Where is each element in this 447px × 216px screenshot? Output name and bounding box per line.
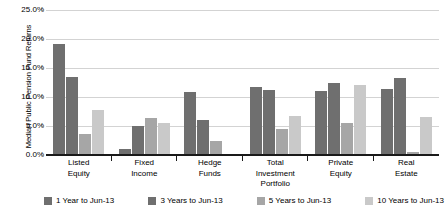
bar xyxy=(53,44,65,155)
y-axis-tick-label: 5.0% xyxy=(0,121,44,130)
x-axis-label-line: Listed xyxy=(46,158,112,169)
x-axis-label-line: Income xyxy=(112,169,178,180)
bar xyxy=(145,118,157,155)
bar xyxy=(92,110,104,155)
y-axis-tick-label: 25.0% xyxy=(0,5,44,14)
x-axis-category-label: ListedEquity xyxy=(46,158,112,188)
legend-label: 5 Years to Jun-13 xyxy=(269,196,331,205)
bar xyxy=(420,117,432,155)
legend-swatch-icon xyxy=(148,197,156,205)
x-axis-label-line: Real xyxy=(374,158,440,169)
y-axis-tick-label: 15.0% xyxy=(0,63,44,72)
y-axis-tick xyxy=(41,126,44,127)
x-axis-category-label: TotalInvestmentPortfolio xyxy=(243,158,309,188)
bar xyxy=(341,123,353,155)
y-axis-labels: 25.0%20.0%15.0%10.0%5.0%0.0% xyxy=(0,10,44,155)
bar xyxy=(394,78,406,155)
y-axis-tick xyxy=(41,155,44,156)
x-axis-label-line: Funds xyxy=(177,169,243,180)
y-axis-tick xyxy=(41,10,44,11)
legend-item[interactable]: 1 Year to Jun-13 xyxy=(44,196,114,205)
x-axis-line xyxy=(46,154,439,156)
bar xyxy=(263,90,275,155)
x-axis-category-label: HedgeFunds xyxy=(177,158,243,188)
bar xyxy=(381,89,393,155)
legend-swatch-icon xyxy=(365,197,373,205)
bar xyxy=(184,92,196,155)
bar xyxy=(328,83,340,155)
x-axis-label-line: Equity xyxy=(308,169,374,180)
legend-label: 3 Years to Jun-13 xyxy=(160,196,222,205)
legend-item[interactable]: 5 Years to Jun-13 xyxy=(257,196,331,205)
bar xyxy=(197,120,209,155)
x-axis-category-label: FixedIncome xyxy=(112,158,178,188)
bar xyxy=(276,129,288,155)
legend-label: 1 Year to Jun-13 xyxy=(56,196,114,205)
bar xyxy=(315,91,327,155)
bar xyxy=(210,141,222,156)
x-axis-labels: ListedEquityFixedIncomeHedgeFundsTotalIn… xyxy=(46,158,439,188)
plot-area xyxy=(46,10,439,155)
bar xyxy=(354,85,366,155)
x-axis-category-label: PrivateEquity xyxy=(308,158,374,188)
bar-group xyxy=(243,10,309,155)
x-axis-label-line: Portfolio xyxy=(243,179,309,190)
bar xyxy=(79,134,91,155)
y-axis-tick-label: 0.0% xyxy=(0,150,44,159)
bar-group xyxy=(308,10,374,155)
y-axis-tick xyxy=(41,97,44,98)
legend-label: 10 Years to Jun-13 xyxy=(377,196,444,205)
x-axis-label-line: Hedge xyxy=(177,158,243,169)
y-axis-tick xyxy=(41,68,44,69)
legend-item[interactable]: 3 Years to Jun-13 xyxy=(148,196,222,205)
bar-group xyxy=(177,10,243,155)
y-axis-tick-label: 20.0% xyxy=(0,34,44,43)
chart-legend: 1 Year to Jun-133 Years to Jun-135 Years… xyxy=(44,196,444,205)
bar xyxy=(132,126,144,155)
x-axis-label-line: Estate xyxy=(374,169,440,180)
x-axis-label-line: Equity xyxy=(46,169,112,180)
y-axis-tick-label: 10.0% xyxy=(0,92,44,101)
bar xyxy=(158,123,170,155)
legend-swatch-icon xyxy=(44,197,52,205)
x-axis-label-line: Total xyxy=(243,158,309,169)
bar xyxy=(289,116,301,155)
bar xyxy=(250,87,262,155)
bar-chart: Median Public Pension Fund Returns 25.0%… xyxy=(0,0,447,216)
bar-group xyxy=(374,10,440,155)
bar-group xyxy=(112,10,178,155)
bar-groups xyxy=(46,10,439,155)
x-axis-label-line: Investment xyxy=(243,169,309,180)
legend-swatch-icon xyxy=(257,197,265,205)
x-axis-label-line: Fixed xyxy=(112,158,178,169)
y-axis-tick xyxy=(41,39,44,40)
legend-item[interactable]: 10 Years to Jun-13 xyxy=(365,196,444,205)
x-axis-label-line: Private xyxy=(308,158,374,169)
x-axis-category-label: RealEstate xyxy=(374,158,440,188)
bar xyxy=(66,77,78,155)
bar-group xyxy=(46,10,112,155)
